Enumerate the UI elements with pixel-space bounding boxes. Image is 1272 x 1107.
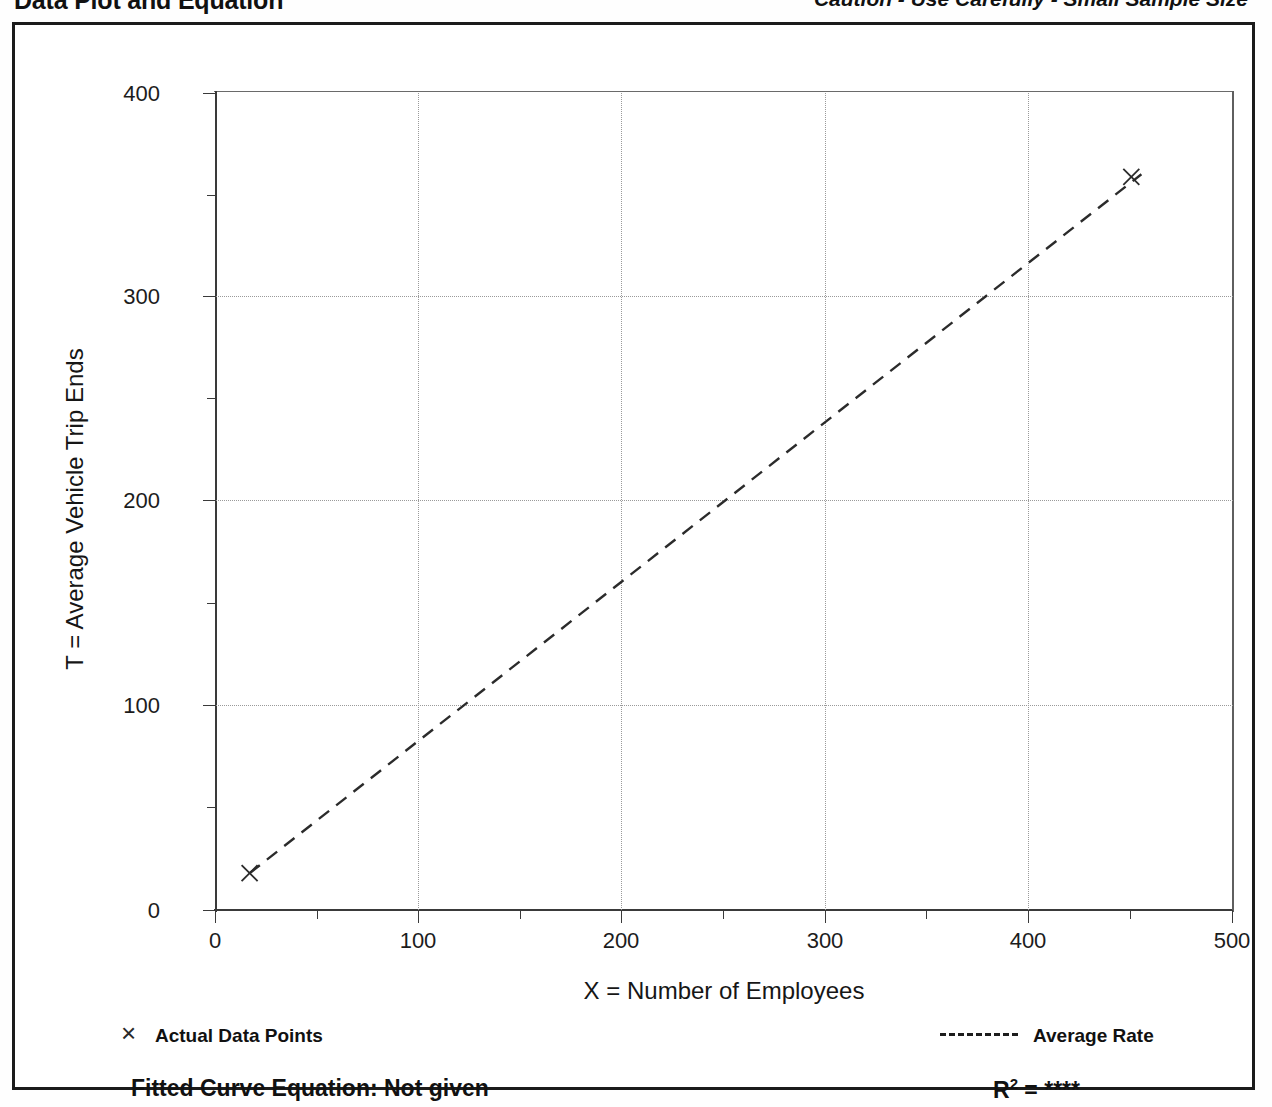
- legend-average-rate-label: Average Rate: [1033, 1025, 1154, 1047]
- y-tick-label-400: 400: [70, 81, 160, 107]
- x-tick-500: [1232, 910, 1233, 923]
- page-title: Data Plot and Equation: [14, 0, 283, 15]
- fitted-curve-equation: Fitted Curve Equation: Not given: [131, 1075, 489, 1102]
- x-axis-title: X = Number of Employees: [215, 977, 1233, 1005]
- r-squared-exponent: 2: [1010, 1075, 1018, 1092]
- plot-top-border: [214, 91, 1234, 92]
- caution-note: Caution - Use Carefully - Small Sample S…: [814, 0, 1248, 11]
- x-tick-350: [926, 910, 927, 919]
- page-header: Data Plot and Equation Caution - Use Car…: [0, 0, 1272, 20]
- x-tick-label-500: 500: [1182, 928, 1272, 954]
- data-point-marker: [242, 865, 258, 881]
- x-tick-50: [317, 910, 318, 919]
- chart-frame: 400 300 200 100 0 0 100 200 300 400 500 …: [12, 22, 1255, 1090]
- legend-dashed-line-icon: [940, 1033, 1018, 1036]
- x-tick-label-100: 100: [368, 928, 468, 954]
- x-tick-100: [418, 910, 419, 923]
- x-tick-150: [520, 910, 521, 919]
- x-tick-450: [1130, 910, 1131, 919]
- x-tick-300: [825, 910, 826, 923]
- x-tick-label-300: 300: [775, 928, 875, 954]
- r-squared-symbol: R: [993, 1077, 1010, 1103]
- legend-actual-data-points-label: Actual Data Points: [155, 1025, 323, 1047]
- r-squared-value: R2 = ****: [993, 1075, 1080, 1104]
- x-tick-400: [1028, 910, 1029, 923]
- x-tick-200: [621, 910, 622, 923]
- r-squared-equals-value: = ****: [1024, 1077, 1080, 1103]
- y-axis-title: T = Average Vehicle Trip Ends: [61, 189, 89, 829]
- legend-x-marker-icon: ×: [121, 1020, 136, 1046]
- y-tick-label-0: 0: [70, 898, 160, 924]
- average-rate-line: [250, 174, 1142, 873]
- x-tick-250: [723, 910, 724, 919]
- x-tick-label-200: 200: [571, 928, 671, 954]
- x-tick-label-0: 0: [165, 928, 265, 954]
- x-tick-0: [215, 910, 216, 923]
- x-tick-label-400: 400: [978, 928, 1078, 954]
- plot-canvas: [215, 93, 1233, 910]
